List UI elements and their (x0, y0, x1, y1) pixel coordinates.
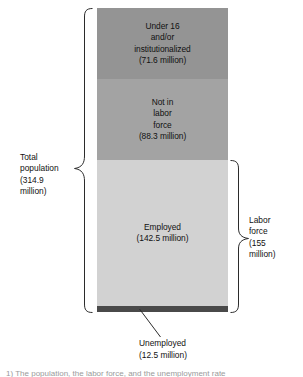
bar-segment-employed: Employed (142.5 million) (97, 160, 228, 306)
segment-label-line: Employed (144, 222, 181, 233)
segment-label-line: institutionalized (134, 44, 190, 55)
figure-canvas: Under 16 and/or institutionalized (71.6 … (0, 0, 303, 377)
labor-force-line: force (249, 226, 276, 237)
label-labor-force: Labor force (155 million) (249, 215, 276, 261)
segment-label-line: Not in (152, 97, 174, 108)
segment-value-line: (71.6 million) (139, 55, 186, 66)
labor-force-line: Labor (249, 215, 276, 226)
unemployed-line: Unemployed (139, 338, 187, 350)
page-caption-truncated: 1) The population, the labor force, and … (6, 369, 298, 377)
total-population-value-line: (314.9 (20, 175, 59, 186)
label-unemployed: Unemployed (12.5 million) (139, 338, 187, 361)
unemployed-value-line: (12.5 million) (139, 350, 187, 362)
segment-label-line: and/or (151, 32, 174, 43)
brace-total-population (72, 4, 94, 320)
bar-segment-not-in-labor-force: Not in labor force (88.3 million) (97, 79, 228, 160)
total-population-line: population (20, 163, 59, 174)
label-total-population: Total population (314.9 million) (20, 152, 59, 198)
brace-labor-force (229, 156, 251, 320)
bar-segment-under-16-or-institutionalized: Under 16 and/or institutionalized (71.6 … (97, 8, 228, 79)
segment-label-line: force (153, 120, 171, 131)
labor-force-value-line: million) (249, 249, 276, 260)
total-population-value-line: million) (20, 186, 59, 197)
bar-segment-unemployed (97, 306, 228, 312)
segment-label-line: labor (153, 108, 171, 119)
labor-force-value-line: (155 (249, 238, 276, 249)
segment-value-line: (88.3 million) (139, 131, 186, 142)
total-population-line: Total (20, 152, 59, 163)
segment-label-line: Under 16 (145, 21, 179, 32)
segment-value-line: (142.5 million) (137, 233, 189, 244)
